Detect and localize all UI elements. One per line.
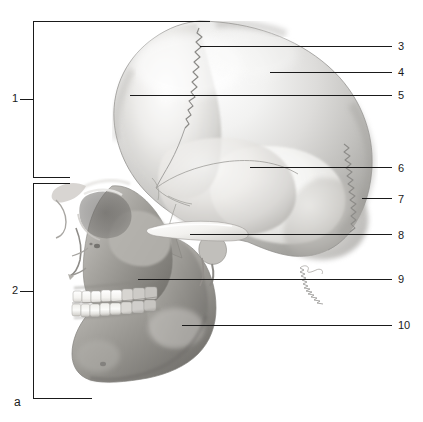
bracket-label-1: 1 <box>12 93 18 104</box>
leader-label-8: 8 <box>398 230 404 241</box>
leader-label-10: 10 <box>398 320 410 331</box>
leader-label-6: 6 <box>398 163 404 174</box>
leader-label-3: 3 <box>398 41 404 52</box>
skull-anatomy-figure: 345678910 12 a <box>0 0 423 422</box>
leader-label-7: 7 <box>398 194 404 205</box>
leader-label-9: 9 <box>398 274 404 285</box>
leader-label-4: 4 <box>398 67 404 78</box>
skull-illustration <box>0 0 423 422</box>
panel-label-a: a <box>14 396 21 408</box>
bracket-label-2: 2 <box>12 285 18 296</box>
leader-label-5: 5 <box>398 90 404 101</box>
